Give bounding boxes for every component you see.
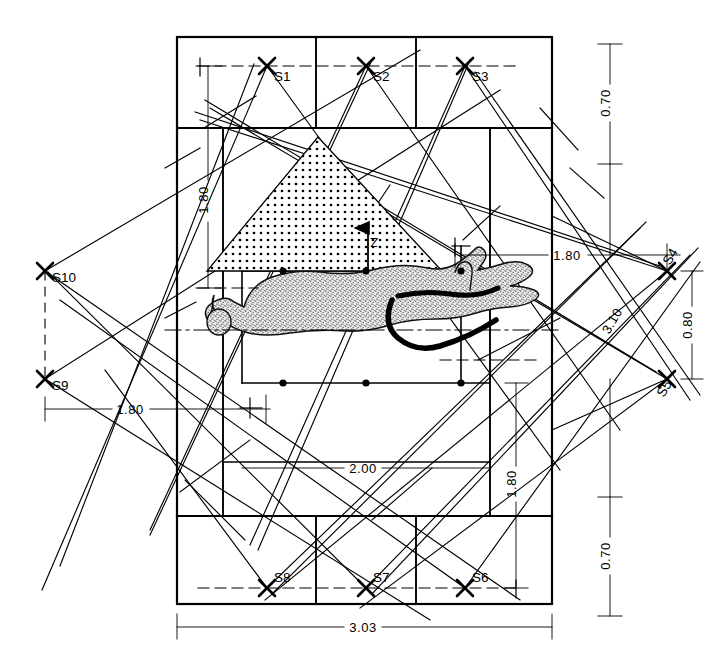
zone-marker-label: Z (370, 235, 378, 250)
station-label-S10: S10 (52, 270, 76, 285)
annotation-labels: Z (370, 235, 378, 250)
station-label-S4: S4 (660, 245, 681, 267)
dim-right-180: 1.80 (553, 248, 580, 263)
station-label-S7: S7 (373, 570, 390, 585)
dim-overall-303: 3.03 (349, 620, 376, 635)
station-label-S5: S5 (654, 378, 675, 400)
station-label-S3: S3 (472, 69, 489, 84)
station-label-S6: S6 (472, 570, 489, 585)
station-label-S1: S1 (274, 69, 291, 84)
dim-diagonal-310: 3.10 (599, 305, 626, 336)
dim-bottom-180: 1.80 (116, 402, 143, 417)
dim-left-180: 1.80 (196, 186, 211, 213)
station-label-S8: S8 (274, 570, 291, 585)
sight-lines (42, 50, 700, 620)
station-label-S9: S9 (52, 378, 69, 393)
dim-right-bot-070: 0.70 (598, 542, 613, 569)
dimension-labels: 1.80 1.80 1.80 1.80 2.00 3.03 3.10 0.80 … (116, 89, 695, 635)
drawing-canvas: S1 S2 S3 S4 S5 S6 S7 S8 S9 S10 1.80 1.80… (0, 0, 720, 661)
site-plan-svg: S1 S2 S3 S4 S5 S6 S7 S8 S9 S10 1.80 1.80… (0, 0, 720, 661)
dim-right-080: 0.80 (680, 311, 695, 338)
dim-right-top-070: 0.70 (598, 89, 613, 116)
dim-lower-right-180: 1.80 (504, 470, 519, 497)
station-label-S2: S2 (373, 69, 390, 84)
stippled-triangle (207, 137, 442, 271)
dim-center-200: 2.00 (349, 461, 376, 476)
